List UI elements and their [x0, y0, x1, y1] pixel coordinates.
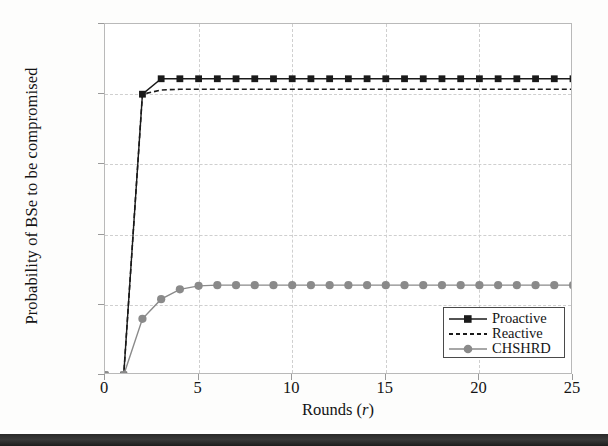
data-point-marker: [476, 75, 483, 82]
data-point-marker: [364, 75, 371, 82]
x-tick-label: 0: [84, 378, 124, 398]
data-point-marker: [176, 285, 184, 293]
data-point-marker: [531, 281, 539, 289]
data-point-marker: [570, 75, 571, 82]
data-point-marker: [269, 281, 277, 289]
legend-swatch: [448, 327, 488, 341]
x-tick-label: 10: [271, 378, 311, 398]
data-point-marker: [569, 281, 571, 289]
data-point-marker: [270, 75, 277, 82]
x-axis-label-close: ): [368, 400, 374, 419]
y-axis-label: Probability of BSe to be compromised: [22, 16, 42, 376]
legend-swatch: [448, 312, 488, 326]
data-point-marker: [400, 281, 408, 289]
x-tick-label: 15: [365, 378, 405, 398]
x-tick-label: 25: [552, 378, 592, 398]
x-axis-label-text: Rounds (: [302, 400, 362, 419]
data-point-marker: [475, 281, 483, 289]
data-point-marker: [419, 281, 427, 289]
x-axis-label: Rounds (r): [104, 400, 572, 420]
legend-item-proactive: Proactive: [448, 311, 560, 326]
data-point-marker: [551, 75, 558, 82]
data-point-marker: [457, 281, 465, 289]
data-point-marker: [494, 281, 502, 289]
data-point-marker: [532, 75, 539, 82]
scan-artifact-bar: [0, 434, 608, 446]
data-point-marker: [344, 281, 352, 289]
data-point-marker: [345, 75, 352, 82]
x-tick-mark: [385, 374, 386, 380]
data-point-marker: [195, 75, 202, 82]
legend-label: CHSHRD: [492, 341, 551, 356]
legend-label: Proactive: [492, 311, 547, 326]
data-point-marker: [288, 281, 296, 289]
data-point-marker: [401, 75, 408, 82]
legend-swatch: [448, 342, 488, 356]
chart-figure: Probability of BSe to be compromised Rou…: [0, 0, 608, 446]
data-point-marker: [439, 75, 446, 82]
data-point-marker: [513, 75, 520, 82]
x-tick-mark: [572, 374, 573, 380]
data-point-marker: [438, 281, 446, 289]
x-tick-label: 20: [458, 378, 498, 398]
data-point-marker: [233, 75, 240, 82]
data-point-marker: [232, 281, 240, 289]
x-tick-mark: [291, 374, 292, 380]
data-point-marker: [289, 75, 296, 82]
data-point-marker: [138, 315, 146, 323]
data-point-marker: [213, 281, 221, 289]
data-point-marker: [382, 281, 390, 289]
data-point-marker: [157, 295, 165, 303]
x-tick-mark: [198, 374, 199, 380]
data-point-marker: [307, 281, 315, 289]
data-point-marker: [326, 75, 333, 82]
data-point-marker: [195, 282, 203, 290]
legend-item-reactive: Reactive: [448, 326, 560, 341]
data-point-marker: [251, 281, 259, 289]
data-point-marker: [363, 281, 371, 289]
data-point-marker: [495, 75, 502, 82]
x-tick-label: 5: [178, 378, 218, 398]
data-point-marker: [550, 281, 558, 289]
data-point-marker: [513, 281, 521, 289]
data-point-marker: [308, 75, 315, 82]
data-point-marker: [158, 75, 165, 82]
x-tick-mark: [104, 374, 105, 380]
data-point-marker: [420, 75, 427, 82]
data-point-marker: [214, 75, 221, 82]
data-point-marker: [457, 75, 464, 82]
legend-label: Reactive: [492, 326, 543, 341]
data-point-marker: [326, 281, 334, 289]
data-point-marker: [176, 75, 183, 82]
x-tick-mark: [478, 374, 479, 380]
data-point-marker: [382, 75, 389, 82]
chart-legend: ProactiveReactiveCHSHRD: [443, 307, 565, 358]
data-point-marker: [105, 371, 109, 373]
data-point-marker: [251, 75, 258, 82]
legend-item-chshrd: CHSHRD: [448, 341, 560, 356]
